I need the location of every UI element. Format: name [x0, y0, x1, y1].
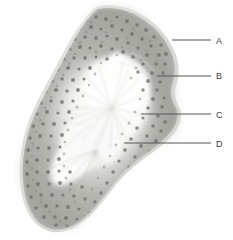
histology-figure: A B C D: [0, 0, 233, 240]
label-d: D: [216, 139, 223, 149]
label-b: B: [216, 71, 222, 81]
label-c: C: [216, 110, 223, 120]
label-a: A: [216, 36, 222, 46]
